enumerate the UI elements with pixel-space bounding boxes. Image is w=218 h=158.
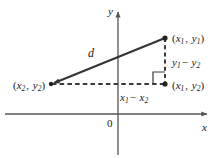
- y-axis-label: y: [108, 6, 113, 17]
- comma: ,: [184, 32, 189, 44]
- minus-sign: −: [181, 56, 189, 68]
- paren-close: ): [41, 79, 45, 91]
- point-label-x2y2: (x2, y2): [13, 80, 45, 92]
- point-dot-x1y1: [162, 35, 167, 40]
- point-label-x1y1: (x1, y1): [172, 33, 204, 45]
- minus-sign: −: [129, 91, 137, 103]
- hypotenuse-segment: [54, 38, 165, 83]
- distance-label-d: d: [88, 47, 94, 59]
- x2-subscript: 2: [144, 96, 148, 105]
- vertical-leg-label: y1− y2: [172, 57, 200, 69]
- point-dot-x2y2: [49, 82, 53, 86]
- paren-close: ): [200, 32, 204, 44]
- x-axis-label: x: [202, 122, 207, 133]
- distance-formula-figure: (x1, y1) (x1, y2) (x2, y2) y1− y2 x1− x2…: [0, 0, 218, 158]
- y2-subscript: 2: [196, 61, 200, 70]
- comma: ,: [25, 79, 30, 91]
- point-label-x1y2: (x1, y2): [172, 80, 204, 92]
- origin-label: 0: [107, 118, 113, 129]
- point-dot-x1y2: [162, 81, 167, 86]
- comma: ,: [184, 79, 189, 91]
- horizontal-leg-label: x1− x2: [120, 92, 148, 104]
- paren-close: ): [200, 79, 204, 91]
